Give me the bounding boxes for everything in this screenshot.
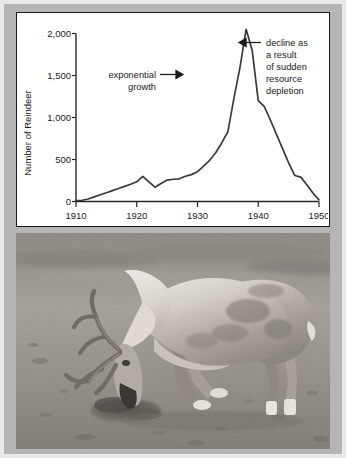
annotation-exponential-growth: exponential growth: [108, 70, 183, 92]
y-axis-title: Number of Reindeer: [22, 90, 33, 176]
x-tick-label: 1950: [308, 210, 328, 221]
figure-container: Number of Reindeer 2,000 1,500 1,000 500…: [0, 0, 346, 458]
y-tick-label: 1,000: [47, 112, 71, 123]
y-tick-label: 1,500: [47, 70, 71, 81]
photograph-svg: [16, 233, 330, 449]
annotation-line: exponential: [108, 70, 156, 80]
x-tick-label: 1930: [187, 210, 208, 221]
chart-svg: Number of Reindeer 2,000 1,500 1,000 500…: [17, 13, 328, 225]
annotation-decline: decline as a result of sudden resource d…: [239, 38, 308, 96]
y-tick-labels: 2,000 1,500 1,000 500 0: [47, 28, 71, 207]
reindeer-photograph: [16, 233, 330, 449]
annotation-line: of sudden: [266, 62, 307, 72]
y-tick-label: 2,000: [47, 28, 71, 39]
x-tick-label: 1920: [126, 210, 147, 221]
arrow-right-icon: [160, 71, 183, 79]
annotation-line: a result: [266, 50, 297, 60]
x-axis-ticks: [76, 202, 319, 208]
annotation-line: depletion: [266, 86, 304, 96]
x-tick-label: 1940: [248, 210, 269, 221]
reindeer-population-chart: Number of Reindeer 2,000 1,500 1,000 500…: [16, 12, 330, 227]
x-tick-label: 1910: [65, 210, 86, 221]
x-tick-labels: 1910 1920 1930 1940 1950: [65, 210, 328, 221]
y-tick-label: 500: [55, 154, 71, 165]
y-tick-label: 0: [66, 196, 71, 207]
annotation-line: resource: [266, 74, 302, 84]
annotation-line: growth: [128, 82, 156, 92]
annotation-line: decline as: [266, 38, 308, 48]
photo-tone-overlay: [16, 233, 330, 449]
